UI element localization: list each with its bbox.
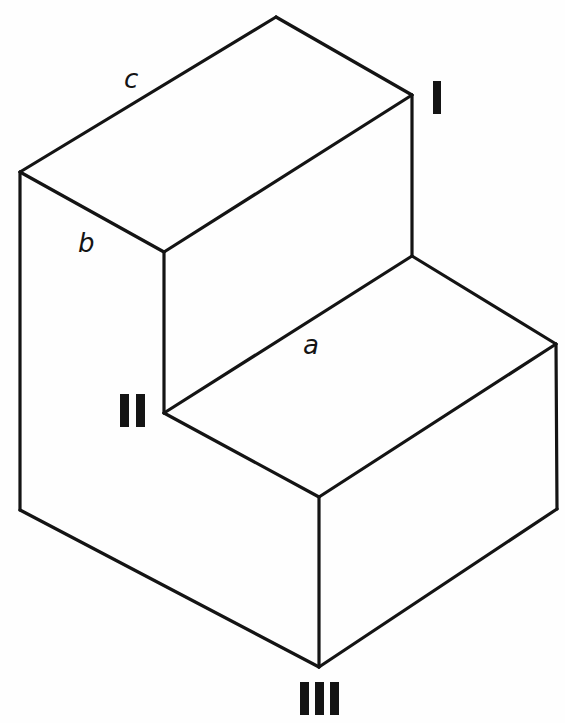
step-top-face xyxy=(164,256,556,497)
edge-label-a: a xyxy=(303,330,319,360)
edge-label-c: c xyxy=(124,64,138,94)
bottom-edges xyxy=(20,509,557,667)
upper-top-face xyxy=(20,17,412,252)
vertex-label-II xyxy=(120,394,145,427)
vertical-edges xyxy=(20,95,557,667)
vertex-label-I xyxy=(433,81,441,114)
stepped-block-diagram: c b a xyxy=(0,0,565,723)
edge-label-b: b xyxy=(78,228,95,258)
vertex-label-III xyxy=(300,682,339,715)
